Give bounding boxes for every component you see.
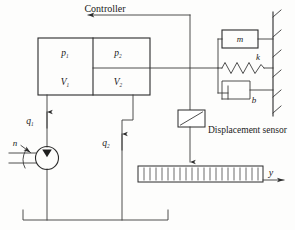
spring-element	[218, 63, 273, 74]
load-table	[138, 166, 284, 182]
displacement-sensor-label: Displacement sensor	[208, 125, 288, 135]
mass-label: m	[237, 34, 244, 44]
shaft-speed-label: n	[13, 138, 18, 148]
hydraulic-servo-system-diagram: Controller p1 p2 V1 V2 q1 q2 m k b n Dis…	[0, 0, 295, 230]
flow-line-q2	[122, 95, 133, 220]
controller-label: Controller	[84, 3, 126, 14]
output-displacement-label: y	[268, 167, 274, 178]
mass-spring-damper-load	[218, 30, 273, 99]
pressure-1-label: p1	[60, 48, 69, 59]
hydraulic-pump	[9, 146, 59, 170]
damper-element	[218, 81, 273, 99]
controller-signal-line	[88, 15, 190, 110]
flow-q1-label: q1	[26, 116, 34, 127]
volume-1-label: V1	[61, 77, 70, 88]
oil-reservoir-tank	[23, 210, 168, 220]
pressure-2-label: p2	[113, 48, 122, 59]
damping-coefficient-label: b	[252, 95, 257, 105]
volume-2-label: V2	[114, 77, 123, 88]
flow-q2-label: q2	[102, 138, 110, 149]
displacement-sensor	[178, 110, 205, 162]
spring-constant-label: k	[256, 52, 261, 62]
fixed-wall	[273, 10, 281, 116]
mass-block	[218, 30, 273, 48]
